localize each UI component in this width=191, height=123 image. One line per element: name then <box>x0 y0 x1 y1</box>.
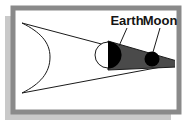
diagram-canvas: Earth Moon <box>0 0 191 123</box>
earth-label: Earth <box>110 13 143 28</box>
lunar-eclipse-figure: Earth Moon <box>0 0 191 123</box>
moon-disk <box>145 52 160 67</box>
moon-label: Moon <box>143 13 178 28</box>
